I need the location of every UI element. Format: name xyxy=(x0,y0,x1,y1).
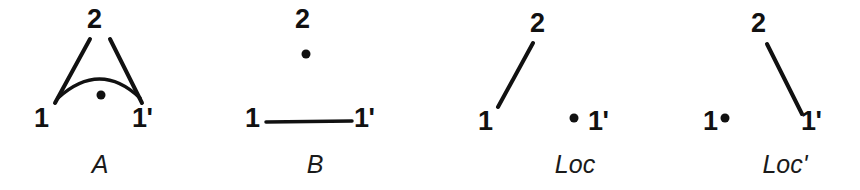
panel-b: 2 1 1' B xyxy=(215,0,430,190)
panel-loc: 2 1 1' Loc xyxy=(430,0,645,190)
edge-1-to-1-prime xyxy=(266,121,352,122)
panel-a-caption: A xyxy=(0,152,200,177)
node-2-label: 2 xyxy=(87,6,102,33)
node-1-prime-label: 1' xyxy=(132,105,152,132)
panel-loc-caption: Loc xyxy=(490,152,660,177)
panel-loc-prime: 2 1 1' Loc' xyxy=(645,0,860,190)
panel-a: 2 1 1' A xyxy=(0,0,215,190)
dot-right-of-1 xyxy=(721,114,730,123)
node-2-label: 2 xyxy=(751,10,766,37)
panel-b-caption: B xyxy=(215,152,415,177)
node-1-label: 1 xyxy=(478,108,493,135)
panel-loc-prime-caption: Loc' xyxy=(695,152,860,177)
dot-under-2 xyxy=(302,50,311,59)
edge-2-to-1-prime xyxy=(767,44,802,114)
edge-1-to-2 xyxy=(55,39,90,103)
node-2-label: 2 xyxy=(530,10,545,37)
node-1-label: 1 xyxy=(703,108,718,135)
node-1-prime-label: 1' xyxy=(588,108,608,135)
node-1-prime-label: 1' xyxy=(801,108,821,135)
diagram-figure: 2 1 1' A 2 1 1' B 2 1 1' Loc xyxy=(0,0,860,190)
node-1-label: 1 xyxy=(34,105,49,132)
node-1-prime-label: 1' xyxy=(354,105,374,132)
node-1-label: 1 xyxy=(245,105,260,132)
edge-1-to-2 xyxy=(498,43,533,107)
dot-under-arc xyxy=(97,91,106,100)
node-2-label: 2 xyxy=(295,6,310,33)
dot-left-of-1-prime xyxy=(570,114,579,123)
